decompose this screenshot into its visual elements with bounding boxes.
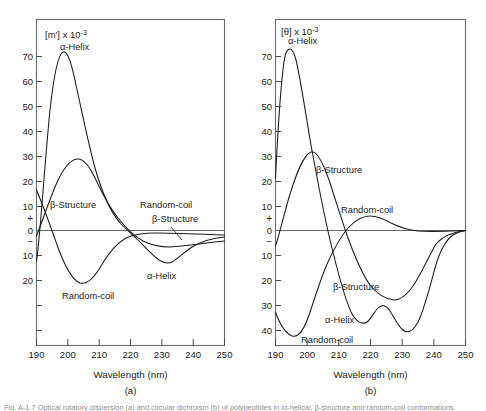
curve-label-a-alpha-helix-bottom: α-Helix [147,271,176,281]
y-tick-label-b-40: 40 [261,126,272,137]
plus-sign-b: + [266,213,272,224]
x-tick-label-a-230: 230 [154,349,170,360]
y-tick-label-b-70: 70 [261,51,272,62]
curve-label-b-beta-structure-top: β-Structure [316,165,362,175]
panel-sublabel-a: (a) [125,385,137,396]
y-tick-label-b-neg10: 10 [261,250,272,261]
minus-sign-a: − [27,236,33,247]
y-tick-label-b-neg40: 40 [261,325,272,336]
y-tick-label-a-70: 70 [22,51,33,62]
curve-label-b-alpha-helix-top: α-Helix [288,36,317,46]
x-tick-label-b-240: 240 [426,349,442,360]
plus-sign-a: + [27,213,33,224]
curve-label-b-random-coil-mid: Random-coil [341,205,393,215]
plot-frame-b [276,20,466,346]
y-tick-label-a-40: 40 [22,126,33,137]
y-tick-label-b-neg20: 20 [261,275,272,286]
y-tick-label-a-0: 0 [28,225,33,236]
curve-label-b-random-coil-bottom: Random-coil [301,335,353,345]
minus-sign-b: − [266,236,272,247]
y-tick-label-a-neg10: 10 [22,250,33,261]
x-tick-label-b-200: 200 [299,349,315,360]
y-tick-label-b-50: 50 [261,101,272,112]
x-tick-label-b-220: 220 [363,349,379,360]
x-tick-label-a-250: 250 [217,349,233,360]
y-tick-label-b-60: 60 [261,76,272,87]
figure-caption: Fig. A-1.7 Optical rotatory dispersion (… [0,402,486,411]
x-tick-label-b-210: 210 [331,349,347,360]
panel-b: 70 60 50 40 30 20 10 0 + − 10 20 30 40 1… [243,0,486,411]
curve-label-a-beta-structure-left: β-Structure [50,200,96,210]
x-axis-label-a: Wavelength (nm) [93,369,167,380]
curve-label-a-beta-structure-right: β-Structure [152,214,198,224]
curve-label-a-alpha-helix-top: α-Helix [60,42,89,52]
x-tick-label-a-210: 210 [91,349,107,360]
y-tick-label-b-0: 0 [267,225,272,236]
y-tick-label-a-neg20: 20 [22,275,33,286]
y-axis-ticks-a [37,57,43,331]
y-tick-label-a-10: 10 [22,201,33,212]
curve-b-beta-structure [276,152,466,300]
x-tick-label-b-190: 190 [268,349,284,360]
curve-label-a-random-coil-right: Random-coil [140,200,192,210]
panel-a: 70 60 50 40 30 20 10 0 + − 10 20 190 200… [0,0,243,411]
y-axis-title-a: [m'] x 10-3 [45,29,87,41]
panel-sublabel-b: (b) [365,385,377,396]
x-tick-label-b-250: 250 [458,349,474,360]
x-axis-ticks-a [37,339,225,346]
y-tick-label-b-30: 30 [261,151,272,162]
y-tick-label-a-20: 20 [22,176,33,187]
x-tick-label-a-240: 240 [185,349,201,360]
x-tick-label-a-190: 190 [29,349,45,360]
panel-b-plot: 70 60 50 40 30 20 10 0 + − 10 20 30 40 1… [243,0,486,411]
curve-label-b-alpha-helix-bottom: α-Helix [325,315,354,325]
y-tick-label-a-60: 60 [22,76,33,87]
y-tick-label-b-neg30: 30 [261,300,272,311]
x-tick-label-a-200: 200 [60,349,76,360]
x-tick-label-a-220: 220 [123,349,139,360]
curve-label-a-random-coil-bottom: Random-coil [62,291,114,301]
y-tick-label-b-10: 10 [261,201,272,212]
y-tick-label-a-50: 50 [22,101,33,112]
y-tick-label-b-20: 20 [261,176,272,187]
panel-a-plot: 70 60 50 40 30 20 10 0 + − 10 20 190 200… [0,0,243,411]
x-axis-label-b: Wavelength (nm) [333,369,407,380]
x-tick-label-b-230: 230 [394,349,410,360]
curve-label-b-beta-structure-mid: β-Structure [333,282,379,292]
y-tick-label-a-30: 30 [22,151,33,162]
